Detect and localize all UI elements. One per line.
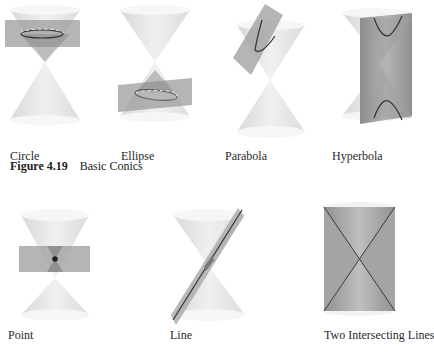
figure-title: Basic Conics	[80, 159, 143, 173]
label-hyperbola: Hyperbola	[332, 150, 383, 163]
circle-conic-figure	[0, 0, 90, 130]
label-point: Point	[8, 329, 33, 342]
line-degenerate-conic-figure	[160, 180, 260, 325]
two-lines-degenerate-conic-figure	[310, 180, 410, 320]
figure-caption: Figure 4.19Basic Conics	[10, 160, 143, 173]
point-degenerate-conic-figure	[0, 180, 110, 320]
ellipse-conic-figure	[110, 0, 200, 130]
parabola-conic-figure	[225, 0, 315, 140]
label-line: Line	[170, 329, 192, 342]
label-two-intersecting-lines: Two Intersecting Lines	[324, 329, 434, 342]
hyperbola-conic-figure	[330, 0, 433, 140]
label-parabola: Parabola	[225, 150, 267, 163]
figure-number: Figure 4.19	[10, 159, 68, 173]
